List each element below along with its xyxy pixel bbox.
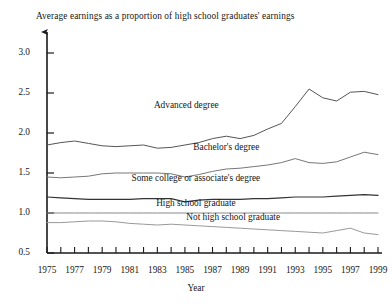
series-label: Not high school graduate (186, 212, 280, 222)
plot-area: Advanced degreeBachelor's degreeSome col… (0, 0, 392, 308)
x-tick-label: 1975 (32, 265, 62, 275)
y-tick-label: 1.0 (4, 207, 30, 217)
x-axis-title: Year (0, 283, 392, 293)
y-tick-label: 0.5 (4, 247, 30, 257)
earnings-line-chart: Average earnings as a proportion of high… (0, 0, 392, 308)
x-tick-label: 1997 (335, 265, 365, 275)
x-tick-label: 1995 (308, 265, 338, 275)
y-tick-label: 2.5 (4, 87, 30, 97)
x-tick-label: 1991 (253, 265, 283, 275)
series-line (47, 89, 378, 148)
x-tick-label: 1993 (280, 265, 310, 275)
x-tick-label: 1983 (142, 265, 172, 275)
x-tick-label: 1989 (225, 265, 255, 275)
y-tick-label: 3.0 (4, 47, 30, 57)
series-label: Bachelor's degree (193, 142, 259, 152)
x-tick-label: 1985 (170, 265, 200, 275)
series-label: High school graduate (156, 198, 236, 208)
x-tick-label: 1981 (115, 265, 145, 275)
series-line (47, 221, 378, 235)
series-label: Advanced degree (154, 100, 219, 110)
series-annotations: Advanced degreeBachelor's degreeSome col… (132, 100, 281, 222)
x-tick-label: 1979 (87, 265, 117, 275)
y-tick-label: 1.5 (4, 167, 30, 177)
y-tick-label: 2.0 (4, 127, 30, 137)
x-tick-label: 1999 (363, 265, 392, 275)
x-tick-label: 1987 (198, 265, 228, 275)
x-tick-label: 1977 (60, 265, 90, 275)
series-label: Some college or associate's degree (132, 173, 261, 183)
